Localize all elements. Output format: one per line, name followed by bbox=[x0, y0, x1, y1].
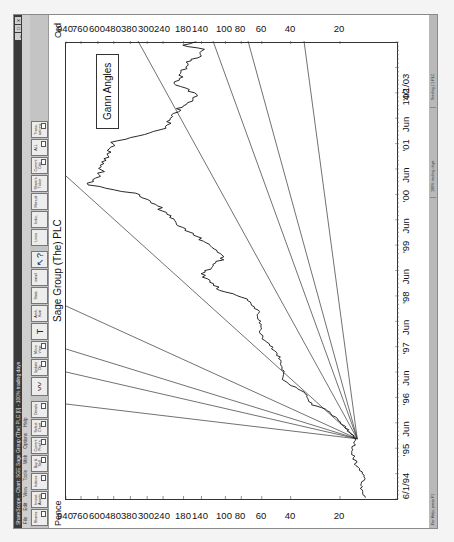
current-calc-button[interactable]: Current Calc bbox=[31, 157, 48, 174]
x-tick-label: Jun bbox=[400, 218, 411, 233]
key-icon bbox=[41, 475, 46, 481]
y-tick-label: 940 bbox=[57, 510, 73, 521]
y-tick-label: 380 bbox=[121, 23, 137, 34]
button-label: Share's Ticker bbox=[34, 177, 42, 189]
y-tick-label: 760 bbox=[72, 510, 88, 521]
button-label: Lines bbox=[34, 233, 38, 242]
minimize-icon[interactable]: _ bbox=[15, 33, 21, 40]
y-tick-label: 300 bbox=[138, 23, 154, 34]
help-cursor-button[interactable]: ↖? bbox=[31, 251, 48, 268]
text-tool-icon: T bbox=[34, 324, 46, 339]
menu-view[interactable]: View bbox=[22, 487, 30, 497]
x-tick-label: '00 bbox=[400, 190, 411, 202]
text-tool-button[interactable]: T bbox=[31, 323, 48, 340]
x-tick-label: 6/1/94 bbox=[400, 473, 411, 499]
x-tick-label: '99 bbox=[400, 241, 411, 253]
y-tick-label: 480 bbox=[105, 510, 121, 521]
y-tick-label: 60 bbox=[255, 510, 266, 521]
x-tick-label: Jun bbox=[400, 320, 411, 335]
x-tick-label: '96 bbox=[400, 393, 411, 405]
menu-options[interactable]: Options bbox=[22, 433, 30, 449]
y-tick-label: 600 bbox=[89, 510, 105, 521]
buy-sell-button[interactable]: Buy & Sell bbox=[31, 455, 48, 472]
button-label: email bbox=[34, 273, 38, 282]
arch-hum-button[interactable]: Arch. Hum bbox=[31, 305, 48, 322]
y-tick-label: 760 bbox=[72, 23, 88, 34]
key-icon bbox=[41, 343, 46, 349]
y-tick-label: 180 bbox=[175, 23, 191, 34]
chart-title: Sage Group (The) PLC bbox=[52, 219, 63, 322]
key-icon bbox=[41, 439, 46, 445]
key-icon bbox=[41, 361, 46, 367]
x-tick-label: '95 bbox=[400, 444, 411, 456]
y-tick-label: 100 bbox=[216, 510, 232, 521]
menu-file[interactable]: File bbox=[22, 517, 30, 524]
lines-button[interactable]: Lines bbox=[31, 229, 48, 246]
button-label: Shares bbox=[34, 512, 38, 523]
update-button[interactable]: Update Dly bbox=[31, 359, 48, 376]
y-tick-label: 180 bbox=[175, 510, 191, 521]
key-icon bbox=[41, 457, 46, 463]
status-bar: For Help, press F1 100% trading days Ste… bbox=[429, 15, 437, 528]
manual-button[interactable]: Manual bbox=[31, 193, 48, 210]
button-label: Manual bbox=[34, 196, 38, 208]
button-label: Indic. bbox=[34, 215, 38, 224]
status-mode: 100% trading days bbox=[429, 161, 437, 192]
y-tick-label: 40 bbox=[284, 23, 295, 34]
transactions-button[interactable]: Trans-actions bbox=[31, 121, 48, 138]
key-icon bbox=[41, 159, 46, 165]
maximize-icon[interactable]: □ bbox=[15, 25, 21, 32]
key-icon bbox=[41, 511, 46, 517]
help-cursor-icon: ↖? bbox=[34, 252, 46, 267]
y-tick-label: 20 bbox=[334, 23, 345, 34]
select-chart-button[interactable]: Select Chart bbox=[31, 419, 48, 436]
chart-line-icon: 〰 bbox=[34, 378, 46, 395]
email-button[interactable]: email bbox=[31, 269, 48, 286]
x-tick-label: Jun bbox=[400, 370, 411, 385]
move-view-button[interactable]: Move View bbox=[31, 341, 48, 358]
chart-panel[interactable]: Pence Sage Group (The) PLC Ord Gann Angl… bbox=[49, 15, 429, 528]
menu-bar: File Edit View Tools Web Options Help bbox=[22, 15, 30, 528]
key-icon bbox=[41, 493, 46, 499]
button-label: Details bbox=[34, 404, 38, 415]
gann-angles-label[interactable]: Gann Angles bbox=[96, 54, 119, 129]
window-title: ShareScope - Chart: SGE Sage Group (The)… bbox=[14, 362, 22, 525]
menu-edit[interactable]: Edit bbox=[22, 503, 30, 511]
title-bar: ShareScope - Chart: SGE Sage Group (The)… bbox=[14, 15, 22, 528]
menu-help[interactable]: Help bbox=[22, 417, 30, 426]
y-tick-label: 240 bbox=[154, 23, 170, 34]
indicators-button[interactable]: Indic. bbox=[31, 211, 48, 228]
chart-line-button[interactable]: 〰 bbox=[31, 377, 48, 396]
y-tick-label: 80 bbox=[235, 23, 246, 34]
y-tick-label: 380 bbox=[121, 510, 137, 521]
indices-button[interactable]: Indices bbox=[31, 473, 48, 490]
y-tick-label: 480 bbox=[105, 23, 121, 34]
menu-tools[interactable]: Tools bbox=[22, 470, 30, 481]
current-position-button[interactable]: Current Posit'n bbox=[31, 437, 48, 454]
shares-ticker-button[interactable]: Share's Ticker bbox=[31, 175, 48, 192]
button-label: Arch. Hum bbox=[34, 309, 42, 317]
status-help: For Help, press F1 bbox=[429, 494, 437, 525]
x-tick-label: 14/1/03 bbox=[400, 74, 411, 106]
x-tick-label: Jun bbox=[400, 167, 411, 182]
plot-area[interactable]: Gann Angles bbox=[65, 42, 398, 500]
x-tick-label: '97 bbox=[400, 342, 411, 354]
button-label: ALL bbox=[34, 144, 38, 150]
menu-web[interactable]: Web bbox=[22, 455, 30, 464]
y-tick-label: 140 bbox=[193, 23, 209, 34]
shares-button[interactable]: Shares bbox=[31, 509, 48, 526]
key-icon bbox=[41, 141, 46, 147]
y-tick-label: 940 bbox=[57, 23, 73, 34]
key-icon bbox=[41, 403, 46, 409]
sharescope-window: ShareScope - Chart: SGE Sage Group (The)… bbox=[14, 15, 437, 528]
key-icon bbox=[41, 421, 46, 427]
invest-assets-button[interactable]: Invest. Assets bbox=[31, 491, 48, 508]
y-tick-label: 20 bbox=[334, 510, 345, 521]
details-button[interactable]: Details bbox=[31, 401, 48, 418]
stats-button[interactable]: Stats bbox=[31, 287, 48, 304]
y-tick-label: 40 bbox=[284, 510, 295, 521]
status-info: Sterling | 1 PLC bbox=[429, 73, 437, 100]
x-tick-label: '98 bbox=[400, 291, 411, 303]
all-button[interactable]: ALL bbox=[31, 139, 48, 156]
close-icon[interactable]: x bbox=[15, 17, 21, 24]
